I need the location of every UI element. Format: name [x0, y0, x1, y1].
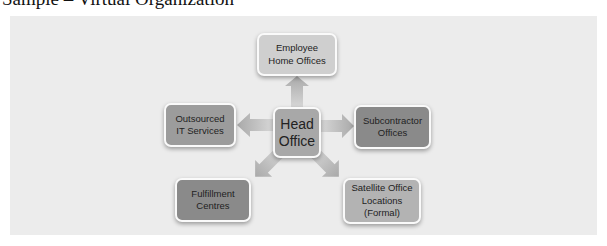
node-label: Offices: [378, 127, 407, 140]
node-outsourced-it-services: Outsourced IT Services: [164, 103, 236, 147]
node-label: Locations: [362, 195, 403, 208]
node-label: Outsourced: [175, 113, 224, 126]
node-label: Satellite Office: [351, 182, 412, 195]
arrow-left-icon: [237, 113, 274, 137]
node-head-office: Head Office: [273, 107, 321, 158]
node-label: (Formal): [364, 207, 400, 220]
node-label: Home Offices: [268, 55, 325, 68]
arrow-right-icon: [320, 114, 354, 138]
node-label: Fulfillment: [191, 188, 234, 201]
node-fulfillment-centres: Fulfillment Centres: [175, 178, 251, 222]
node-label: Office: [279, 133, 315, 150]
node-label: Subcontractor: [363, 115, 422, 128]
node-label: IT Services: [176, 125, 223, 138]
node-label: Employee: [276, 42, 318, 55]
node-satellite-office-locations: Satellite Office Locations (Formal): [343, 178, 421, 224]
node-subcontractor-offices: Subcontractor Offices: [354, 105, 431, 149]
node-label: Centres: [196, 200, 229, 213]
node-label: Head: [280, 116, 313, 133]
arrow-up-icon: [285, 76, 309, 108]
node-employee-home-offices: Employee Home Offices: [257, 33, 337, 76]
